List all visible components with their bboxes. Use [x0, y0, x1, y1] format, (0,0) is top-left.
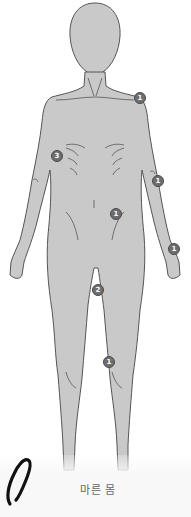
marker-shoulder-right: 1 — [134, 92, 146, 104]
marker-ribs-left: 3 — [51, 150, 63, 162]
paperclip-icon — [2, 452, 36, 512]
thin-body-figure: 1 3 1 1 1 2 1 마른 몸 — [0, 0, 191, 517]
marker-knee-right: 1 — [103, 356, 115, 368]
marker-wrist-right: 1 — [168, 243, 180, 255]
body-silhouette — [0, 0, 191, 517]
marker-inner-thigh: 2 — [92, 284, 104, 296]
marker-hip-right: 1 — [110, 208, 122, 220]
marker-elbow-right: 1 — [152, 175, 164, 187]
figure-caption: 마른 몸 — [80, 481, 116, 497]
